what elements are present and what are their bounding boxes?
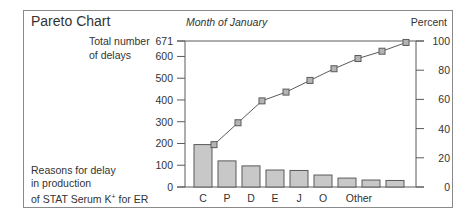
- right-tick-label: 80: [438, 64, 450, 76]
- pareto-plot: 0100200300400500600671020406080100CPDEJO…: [0, 0, 475, 220]
- bar: [194, 145, 212, 187]
- cumulative-marker: [307, 77, 313, 83]
- right-tick-label: 40: [438, 123, 450, 135]
- category-label: O: [319, 192, 327, 204]
- bar: [386, 180, 404, 187]
- left-tick-label: 671: [155, 35, 173, 47]
- right-tick-label: 20: [438, 152, 450, 164]
- category-label: D: [247, 192, 255, 204]
- right-tick-label: 60: [438, 93, 450, 105]
- bar: [218, 161, 236, 187]
- left-tick-label: 600: [155, 50, 173, 62]
- right-tick-label: 0: [444, 181, 450, 193]
- bar: [338, 178, 356, 187]
- right-tick-label: 100: [432, 35, 450, 47]
- left-tick-label: 300: [155, 116, 173, 128]
- category-label: E: [271, 192, 278, 204]
- category-label: Other: [346, 192, 373, 204]
- category-label: P: [223, 192, 230, 204]
- cumulative-marker: [355, 56, 361, 62]
- category-label: J: [296, 192, 301, 204]
- bar: [266, 170, 284, 187]
- left-tick-label: 100: [155, 159, 173, 171]
- left-tick-label: 200: [155, 137, 173, 149]
- cumulative-marker: [259, 98, 265, 104]
- cumulative-marker: [211, 142, 217, 148]
- bar: [242, 166, 260, 187]
- bar: [290, 170, 308, 187]
- cumulative-marker: [379, 48, 385, 54]
- cumulative-line: [214, 42, 406, 144]
- cumulative-marker: [283, 89, 289, 95]
- category-label: C: [199, 192, 207, 204]
- cumulative-marker: [403, 39, 409, 45]
- cumulative-marker: [331, 66, 337, 72]
- left-tick-label: 0: [167, 181, 173, 193]
- bar: [362, 180, 380, 187]
- left-tick-label: 400: [155, 94, 173, 106]
- cumulative-marker: [235, 120, 241, 126]
- left-tick-label: 500: [155, 72, 173, 84]
- bar: [314, 175, 332, 187]
